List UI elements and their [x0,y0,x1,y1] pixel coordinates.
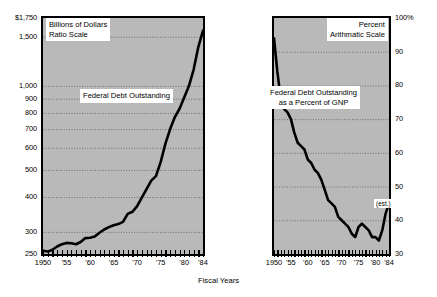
x-axis-tick [355,250,356,257]
x-axis-tick [76,250,77,257]
y-tick-label: 30 [395,250,403,258]
x-axis-tick [156,250,157,257]
x-axis-tick [48,250,49,257]
x-tick-label: '84 [376,259,402,267]
x-axis-tick [345,250,346,257]
x-axis-tick [311,250,312,257]
x-axis-tick [184,250,185,257]
x-axis-tick [104,250,105,257]
x-axis-tick [67,250,68,257]
x-axis-tick [315,250,316,257]
x-axis-tick [161,250,162,257]
x-axis-tick [291,250,292,257]
y-tick-label: 600 [0,144,37,152]
x-axis-tick [365,250,366,257]
x-axis-tick [372,250,373,257]
y-tick-label: 250 [0,250,37,258]
x-axis-tick [90,250,91,257]
x-axis-tick [123,250,124,257]
x-axis-tick [95,250,96,257]
x-axis-tick [43,250,44,257]
panel-title-box-left: Billions of Dollars Ratio Scale [46,18,110,41]
x-tick-label: '70 [124,259,150,267]
x-axis-tick [298,250,299,257]
plot-area-left [43,18,203,254]
x-axis-tick [376,250,377,257]
x-axis-tick [379,250,380,257]
x-axis-tick [348,250,349,257]
x-axis-tick [321,250,322,257]
y-tick-label: 60 [395,149,403,157]
plot-area-right [274,18,389,254]
panel-title-line2: Arithmatic Scale [330,30,385,40]
x-axis-tick [114,250,115,257]
chart-panel-federal-debt-percent-gnp [272,16,391,256]
x-axis-tick [137,250,138,257]
x-axis-tick [328,250,329,257]
x-axis-tick [151,250,152,257]
x-axis-tick [359,250,360,257]
x-tick-label: '60 [77,259,103,267]
x-axis-tick [109,250,110,257]
x-axis-tick [294,250,295,257]
x-axis-tick [100,250,101,257]
series-label-text: Federal Debt Outstanding [83,91,170,101]
x-tick-label: '75 [148,259,174,267]
x-axis-tick [332,250,333,257]
y-tick-label: 1,500 [0,33,37,41]
x-axis-tick [57,250,58,257]
panel-title-line2: Ratio Scale [49,30,107,40]
x-axis-tick [369,250,370,257]
x-axis-tick [180,250,181,257]
x-axis-tick [118,250,119,257]
x-axis-tick [52,250,53,257]
y-tick-label: $1,750 [0,14,37,22]
y-tick-label: 40 [395,216,403,224]
y-tick-label: 300 [0,228,37,236]
x-axis-tick [281,250,282,257]
x-axis-tick [198,250,199,257]
x-axis-title: Fiscal Years [0,276,437,285]
x-axis-tick [194,250,195,257]
x-axis-tick [142,250,143,257]
x-axis-tick [170,250,171,257]
x-axis-tick [203,250,204,257]
y-tick-label: 50 [395,183,403,191]
panel-title-line1: Percent [330,20,385,30]
x-axis-tick [352,250,353,257]
y-tick-label: 800 [0,109,37,117]
x-axis-tick [71,250,72,257]
x-axis-tick [362,250,363,257]
y-tick-label: 80 [395,81,403,89]
series-label-line2: as a Percent of GNP [270,98,357,108]
x-axis-tick [175,250,176,257]
y-tick-label: 70 [395,115,403,123]
x-axis-tick [132,250,133,257]
x-axis-tick [308,250,309,257]
x-axis-tick [147,250,148,257]
x-axis-tick [274,250,275,257]
y-tick-label: 90 [395,48,403,56]
x-axis-tick [165,250,166,257]
chart-panel-federal-debt-outstanding [41,16,205,256]
panel-title-line1: Billions of Dollars [49,20,107,30]
x-axis-tick [342,250,343,257]
x-axis-tick [284,250,285,257]
series-label-line1: Federal Debt Outstanding [270,88,357,98]
x-axis-tick [386,250,387,257]
x-axis-tick [301,250,302,257]
x-axis-tick [382,250,383,257]
x-axis-tick [81,250,82,257]
x-tick-label: '84 [190,259,216,267]
y-tick-label: 500 [0,166,37,174]
x-axis-tick [338,250,339,257]
y-tick-label: 1,000 [0,82,37,90]
y-tick-label: 100% [395,14,414,22]
x-axis-tick [335,250,336,257]
x-tick-label: 1950 [30,259,56,267]
estimate-note: (est.) [374,199,393,208]
y-tick-label: 400 [0,193,37,201]
x-axis-tick [62,250,63,257]
series-label-right: Federal Debt Outstanding as a Percent of… [267,86,360,109]
x-tick-label: '55 [54,259,80,267]
